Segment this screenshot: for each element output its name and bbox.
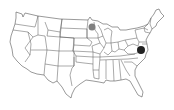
marker-minnesota[interactable] xyxy=(89,24,96,31)
us-map xyxy=(0,0,174,110)
marker-virginia[interactable] xyxy=(137,46,145,54)
